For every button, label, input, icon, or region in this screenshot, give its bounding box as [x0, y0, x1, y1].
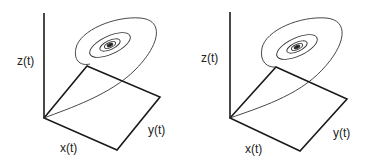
x-axis-label-right: x(t)	[245, 143, 262, 155]
z-axis-label-right: z(t)	[201, 52, 218, 64]
xy-plane	[44, 66, 160, 150]
phase-space-figure: z(t) x(t) y(t) z(t) x(t) y(t)	[0, 0, 365, 163]
spiral-attractor-right	[273, 30, 320, 65]
panel-left-diagram	[0, 0, 365, 163]
trajectory-outer	[44, 18, 156, 118]
y-axis-label-right: y(t)	[333, 127, 350, 139]
trajectory-outer-right	[230, 18, 342, 118]
x-axis-label: x(t)	[60, 142, 77, 154]
spiral-attractor	[86, 28, 133, 63]
xy-plane-right	[230, 67, 347, 151]
z-axis-label: z(t)	[17, 55, 34, 67]
y-axis-label: y(t)	[148, 124, 165, 136]
